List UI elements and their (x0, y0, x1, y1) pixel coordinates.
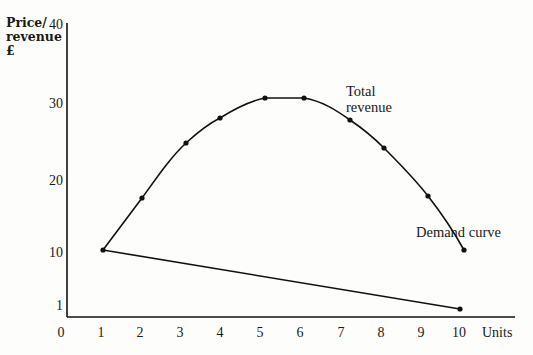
x-tick-5: 5 (257, 325, 264, 340)
y-tick-10: 10 (49, 245, 63, 260)
tr-point-1 (100, 247, 105, 252)
x-tick-7: 7 (338, 325, 345, 340)
demand-point-10 (457, 306, 462, 311)
tr-point-6 (301, 95, 306, 100)
total-revenue-markers (100, 95, 466, 252)
x-tick-2: 2 (137, 325, 144, 340)
tr-point-10 (461, 247, 466, 252)
x-tick-8: 8 (378, 325, 385, 340)
y-tick-30: 30 (49, 96, 63, 111)
y-tick-20: 20 (49, 173, 63, 188)
y-tick-40: 40 (49, 17, 63, 32)
tr-point-8 (381, 145, 386, 150)
tr-point-9 (425, 193, 430, 198)
tr-point-7 (347, 117, 352, 122)
x-tick-1: 1 (98, 325, 105, 340)
tr-point-3 (183, 140, 188, 145)
total-revenue-curve (103, 98, 464, 250)
y-tick-1: 1 (56, 298, 63, 313)
demand-curve (103, 250, 460, 309)
x-tick-6: 6 (297, 325, 304, 340)
chart: 40 30 20 10 1 0 1 2 3 4 5 6 7 8 9 10 Uni… (0, 0, 533, 355)
tr-point-4 (217, 115, 222, 120)
x-tick-9: 9 (418, 325, 425, 340)
x-tick-10: 10 (452, 325, 466, 340)
x-tick-4: 4 (217, 325, 224, 340)
x-tick-3: 3 (177, 325, 184, 340)
x-tick-0: 0 (58, 325, 65, 340)
demand-curve-label: Demand curve (416, 224, 501, 240)
x-axis-title: Units (482, 325, 512, 340)
total-revenue-label-line-1: Total (346, 83, 376, 99)
tr-point-2 (139, 195, 144, 200)
total-revenue-label-line-2: revenue (346, 99, 392, 115)
tr-point-5 (262, 95, 267, 100)
